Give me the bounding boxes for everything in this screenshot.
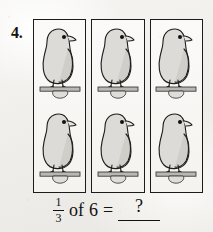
bird-icon	[37, 23, 83, 103]
bird-icon	[153, 108, 199, 188]
group-box-1	[33, 19, 86, 193]
answer-rule	[118, 220, 160, 222]
bird-icon	[37, 108, 83, 188]
equation: 1 3 of 6 = ?	[0, 196, 213, 225]
fraction-numerator: 1	[53, 196, 63, 209]
bird-icon	[95, 108, 141, 188]
answer-blank[interactable]: ?	[118, 199, 160, 221]
bird-icon	[95, 23, 141, 103]
group-box-3	[150, 19, 203, 193]
group-container	[33, 19, 203, 193]
question-mark: ?	[135, 197, 143, 215]
list-item	[151, 106, 202, 191]
page-title: 4.	[11, 25, 22, 41]
whole-number: 6	[89, 201, 98, 219]
list-item	[92, 106, 143, 191]
group-box-2	[91, 19, 144, 193]
of-word: of	[69, 201, 84, 219]
bird-icon	[153, 23, 199, 103]
list-item	[151, 21, 202, 106]
list-item	[34, 106, 85, 191]
fraction-one-third: 1 3	[53, 196, 64, 225]
equals-sign: =	[103, 201, 113, 219]
list-item	[92, 21, 143, 106]
worksheet-page: 4.	[0, 0, 213, 232]
list-item	[34, 21, 85, 106]
fraction-denominator: 3	[53, 212, 63, 225]
